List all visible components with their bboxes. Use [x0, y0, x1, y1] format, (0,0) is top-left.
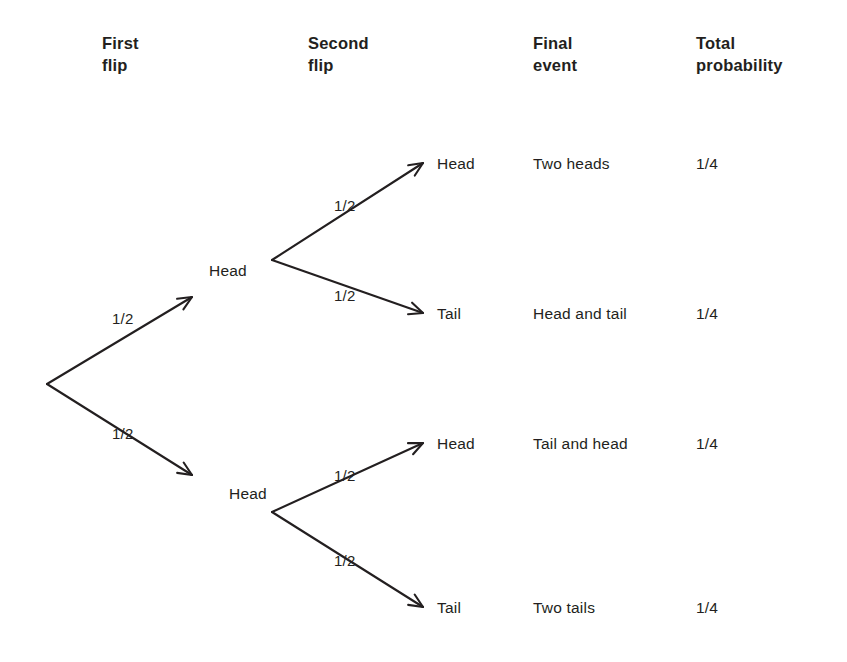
total-probability-outcome-1: 1/4 [696, 155, 718, 173]
final-event-outcome-4: Two tails [533, 599, 595, 617]
edge-prob-level2-leaf-1: 1/2 [334, 197, 355, 214]
node-label-node-head-2: Head [229, 485, 267, 503]
node-label-leaf-4: Tail [437, 599, 461, 617]
node-label-leaf-1: Head [437, 155, 475, 173]
edge-prob-level2-leaf-3: 1/2 [334, 467, 355, 484]
final-event-outcome-3: Tail and head [533, 435, 628, 453]
total-probability-outcome-3: 1/4 [696, 435, 718, 453]
node-label-leaf-3: Head [437, 435, 475, 453]
edge-prob-level1-node-head-2: 1/2 [112, 425, 133, 442]
edge-prob-level1-node-head-1: 1/2 [112, 310, 133, 327]
edge-prob-level2-leaf-4: 1/2 [334, 552, 355, 569]
arrow-heads [177, 163, 423, 607]
total-probability-outcome-2: 1/4 [696, 305, 718, 323]
column-header-first-flip: First flip [102, 32, 139, 77]
final-event-outcome-1: Two heads [533, 155, 610, 173]
arrowhead-level1-node-head-1 [177, 297, 192, 309]
arrowhead-level1-node-head-2 [177, 463, 192, 475]
node-label-leaf-2: Tail [437, 305, 461, 323]
total-probability-outcome-4: 1/4 [696, 599, 718, 617]
edge-prob-level2-leaf-2: 1/2 [334, 287, 355, 304]
branch-lines [47, 163, 423, 607]
column-header-final-event: Final event [533, 32, 577, 77]
column-header-total-probability: Total probability [696, 32, 783, 77]
probability-tree-diagram: First flipSecond flipFinal eventTotal pr… [0, 0, 847, 662]
tree-branches-svg [0, 0, 847, 662]
final-event-outcome-2: Head and tail [533, 305, 627, 323]
arrowhead-level2-leaf-1 [408, 163, 423, 176]
column-header-second-flip: Second flip [308, 32, 369, 77]
node-label-node-head-1: Head [209, 262, 247, 280]
arrowhead-level2-leaf-4 [408, 595, 423, 607]
